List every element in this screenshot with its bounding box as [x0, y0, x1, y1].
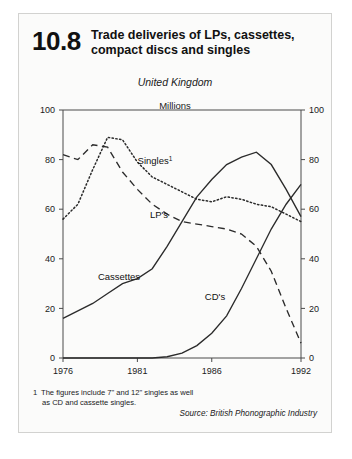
footnote-marker: 1 [33, 388, 41, 398]
plot-area: 0020204040606080801001001976198119861992… [19, 14, 333, 434]
svg-text:100: 100 [40, 105, 55, 115]
svg-text:1981: 1981 [127, 366, 147, 376]
svg-text:1992: 1992 [291, 366, 311, 376]
label-cds: CD's [205, 291, 226, 302]
svg-text:60: 60 [45, 204, 55, 214]
chart-axes: 0020204040606080801001001976198119861992 [40, 105, 324, 376]
svg-text:20: 20 [45, 304, 55, 314]
label-lps: LP's [150, 209, 168, 220]
series-singles [63, 137, 301, 221]
svg-text:60: 60 [309, 204, 319, 214]
footnote-line-1: The figures include 7" and 12" singles a… [41, 388, 193, 397]
source-note: Source: British Phonographic Industry [180, 409, 317, 418]
label-cassettes: Cassettes [98, 271, 140, 282]
svg-text:1976: 1976 [53, 366, 73, 376]
svg-text:80: 80 [45, 155, 55, 165]
svg-text:100: 100 [309, 105, 324, 115]
svg-text:20: 20 [309, 304, 319, 314]
footnote-line-2: as CD and cassette singles. [33, 398, 317, 408]
series-lps [63, 145, 301, 343]
line-chart: 0020204040606080801001001976198119861992… [19, 14, 333, 434]
series-cassettes [63, 152, 301, 318]
svg-text:0: 0 [50, 353, 55, 363]
svg-text:1986: 1986 [202, 366, 222, 376]
svg-text:40: 40 [45, 254, 55, 264]
chart-series [63, 137, 301, 358]
footnote: 1The figures include 7" and 12" singles … [33, 388, 317, 408]
figure-panel: 10.8 Trade deliveries of LPs, cassettes,… [18, 13, 332, 433]
svg-text:40: 40 [309, 254, 319, 264]
chart-series-labels: Singles1LP'sCassettesCD's [98, 155, 226, 303]
svg-text:80: 80 [309, 155, 319, 165]
label-singles: Singles1 [138, 155, 173, 167]
svg-text:0: 0 [309, 353, 314, 363]
